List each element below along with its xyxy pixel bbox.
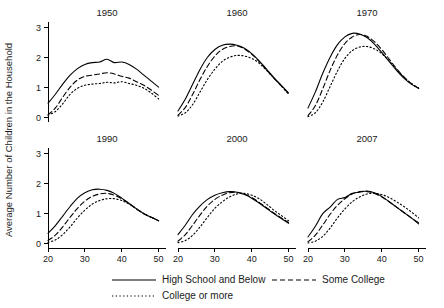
series-line-dotted <box>178 55 289 116</box>
series-line-solid <box>48 59 159 103</box>
x-tick-label: 30 <box>80 254 90 264</box>
multi-panel-line-chart: 1950012319601970199001232030405020002030… <box>0 0 444 308</box>
chart-figure: 1950012319601970199001232030405020002030… <box>0 0 444 308</box>
series-line-dotted <box>178 193 289 242</box>
y-tick-label: 2 <box>36 179 41 189</box>
panel-1970: 1970 <box>308 7 419 117</box>
x-tick-label: 40 <box>247 254 257 264</box>
series-line-solid <box>48 189 159 233</box>
x-tick-label: 20 <box>173 254 183 264</box>
y-tick-label: 0 <box>36 113 41 123</box>
chart-legend: High School and BelowSome CollegeCollege… <box>112 274 385 301</box>
x-tick-label: 40 <box>377 254 387 264</box>
panel-title-1970: 1970 <box>356 7 377 18</box>
x-tick-label: 50 <box>414 254 424 264</box>
panel-2000: 200020304050 <box>173 133 296 264</box>
x-tick-label: 50 <box>284 254 294 264</box>
y-tick-label: 3 <box>36 149 41 159</box>
x-tick-label: 30 <box>210 254 220 264</box>
panel-1960: 1960 <box>178 7 289 116</box>
x-tick-label: 20 <box>303 254 313 264</box>
legend-label: High School and Below <box>162 274 266 285</box>
panel-title-1960: 1960 <box>226 7 247 18</box>
series-line-solid <box>308 33 419 108</box>
series-line-dotted <box>48 199 159 243</box>
legend-label: College or more <box>162 290 234 301</box>
y-tick-label: 0 <box>36 239 41 249</box>
panel-1990: 1990012320304050 <box>36 133 166 264</box>
y-tick-label: 1 <box>36 83 41 93</box>
series-line-dotted <box>48 82 159 115</box>
series-line-solid <box>308 191 419 237</box>
y-tick-label: 3 <box>36 23 41 33</box>
panel-title-1950: 1950 <box>96 7 117 18</box>
legend-label: Some College <box>322 274 385 285</box>
panel-title-1990: 1990 <box>96 133 117 144</box>
x-tick-label: 40 <box>117 254 127 264</box>
y-tick-label: 2 <box>36 53 41 63</box>
x-tick-label: 30 <box>340 254 350 264</box>
y-axis-title: Average Number of Children in the Househ… <box>3 43 14 237</box>
panel-title-2007: 2007 <box>356 133 377 144</box>
series-line-dotted <box>308 193 419 243</box>
panel-title-2000: 2000 <box>226 133 247 144</box>
series-line-dashed <box>48 73 159 115</box>
panel-2007: 200720304050 <box>303 133 426 264</box>
series-line-dotted <box>308 46 419 116</box>
x-tick-label: 20 <box>43 254 53 264</box>
y-tick-label: 1 <box>36 209 41 219</box>
panel-1950: 19500123 <box>36 7 159 123</box>
series-line-solid <box>178 192 289 235</box>
x-tick-label: 50 <box>154 254 164 264</box>
